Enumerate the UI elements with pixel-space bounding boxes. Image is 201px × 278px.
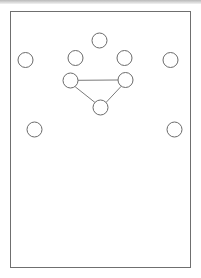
diagram-canvas [0, 0, 201, 278]
node-upper-left [68, 51, 83, 66]
node-far-left [18, 53, 33, 68]
node-triangle-right [118, 73, 133, 88]
node-diagram [0, 0, 201, 278]
node-far-right [163, 53, 178, 68]
node-triangle-bottom [93, 100, 108, 115]
node-upper-right [117, 51, 132, 66]
node-lower-right [167, 122, 182, 137]
node-top-center [92, 33, 107, 48]
node-lower-left [27, 122, 42, 137]
node-triangle-left [63, 73, 78, 88]
outer-frame [11, 12, 191, 268]
